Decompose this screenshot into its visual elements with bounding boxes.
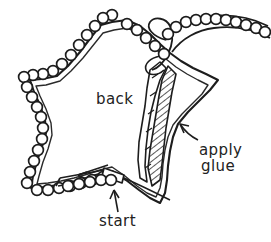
start-callout-arrow: [110, 190, 119, 212]
label-start: start: [99, 214, 136, 229]
label-apply-glue-line1: apply: [199, 143, 242, 158]
glue-callout-arrow: [180, 124, 198, 140]
craft-instruction-diagram: back apply glue start: [0, 0, 271, 242]
diagram-artwork: [0, 0, 271, 242]
trim-tail-beads: [163, 14, 271, 40]
label-back: back: [96, 92, 133, 107]
label-apply-glue-line2: glue: [201, 159, 235, 174]
